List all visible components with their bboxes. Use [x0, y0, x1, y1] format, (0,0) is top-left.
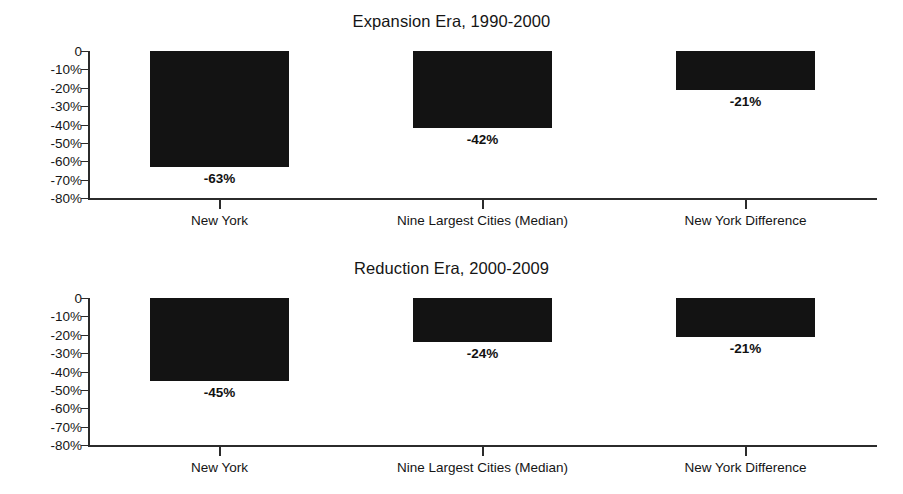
plot-area: -63%New York-42%Nine Largest Cities (Med… — [88, 51, 877, 200]
plot-area: -45%New York-24%Nine Largest Cities (Med… — [88, 298, 877, 447]
y-axis-tick-label: -50% — [50, 136, 82, 149]
y-axis-tick — [81, 106, 89, 107]
y-axis-line — [88, 298, 90, 447]
y-axis-tick — [81, 51, 89, 52]
x-axis-tick — [482, 200, 484, 209]
x-axis-category-label: Nine Largest Cities (Median) — [397, 213, 568, 228]
bar-value-label: -21% — [730, 341, 762, 356]
x-axis-category-label: New York Difference — [684, 213, 806, 228]
y-axis-tick — [81, 427, 89, 428]
x-axis-category-label: Nine Largest Cities (Median) — [397, 460, 568, 475]
y-axis-tick — [81, 353, 89, 354]
y-axis-tick — [81, 88, 89, 89]
y-axis-tick-label: -20% — [50, 81, 82, 94]
x-axis-tick — [745, 200, 747, 209]
y-axis-tick — [81, 198, 89, 199]
chart-title: Reduction Era, 2000-2009 — [0, 259, 903, 278]
y-axis-tick-label: -10% — [50, 310, 82, 323]
bar[interactable] — [676, 298, 815, 337]
x-axis-tick — [482, 447, 484, 456]
y-axis-tick-label: -40% — [50, 365, 82, 378]
bar-value-label: -42% — [467, 132, 499, 147]
y-axis-tick — [81, 316, 89, 317]
y-axis-tick-label: -10% — [50, 63, 82, 76]
chart-panel-reduction-era: Reduction Era, 2000-2009 0-10%-20%-30%-4… — [0, 247, 903, 494]
y-axis-tick-label: -70% — [50, 173, 82, 186]
chart-title: Expansion Era, 1990-2000 — [0, 12, 903, 31]
x-axis-category-label: New York — [191, 213, 248, 228]
y-axis-tick — [81, 69, 89, 70]
y-axis-tick — [81, 408, 89, 409]
bar[interactable] — [413, 51, 552, 128]
bar-value-label: -24% — [467, 346, 499, 361]
y-axis-tick-label: -70% — [50, 420, 82, 433]
y-axis-tick — [81, 298, 89, 299]
x-axis-category-label: New York — [191, 460, 248, 475]
x-axis-category-label: New York Difference — [684, 460, 806, 475]
y-axis-labels: 0-10%-20%-30%-40%-50%-60%-70%-80% — [10, 51, 82, 200]
y-axis-tick-label: -30% — [50, 347, 82, 360]
y-axis-tick — [81, 335, 89, 336]
y-axis-tick — [81, 143, 89, 144]
bar[interactable] — [413, 298, 552, 342]
y-axis-tick-label: -80% — [50, 439, 82, 452]
y-axis-tick — [81, 125, 89, 126]
y-axis-tick — [81, 372, 89, 373]
x-axis-tick — [219, 200, 221, 209]
bar-value-label: -45% — [204, 385, 236, 400]
y-axis-tick-label: -30% — [50, 100, 82, 113]
bar[interactable] — [150, 51, 289, 167]
y-axis-tick — [81, 161, 89, 162]
chart-panel-expansion-era: Expansion Era, 1990-2000 0-10%-20%-30%-4… — [0, 0, 903, 247]
bar[interactable] — [150, 298, 289, 381]
bar-value-label: -63% — [204, 171, 236, 186]
y-axis-labels: 0-10%-20%-30%-40%-50%-60%-70%-80% — [10, 298, 82, 447]
y-axis-tick-label: -60% — [50, 402, 82, 415]
y-axis-tick-label: -50% — [50, 383, 82, 396]
y-axis-tick-label: -40% — [50, 118, 82, 131]
y-axis-line — [88, 51, 90, 200]
y-axis-tick-label: -60% — [50, 155, 82, 168]
y-axis-tick-label: -20% — [50, 328, 82, 341]
bar[interactable] — [676, 51, 815, 90]
bar-value-label: -21% — [730, 94, 762, 109]
y-axis-tick — [81, 180, 89, 181]
x-axis-tick — [745, 447, 747, 456]
y-axis-tick — [81, 445, 89, 446]
y-axis-tick — [81, 390, 89, 391]
x-axis-tick — [219, 447, 221, 456]
y-axis-tick-label: -80% — [50, 192, 82, 205]
